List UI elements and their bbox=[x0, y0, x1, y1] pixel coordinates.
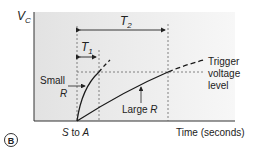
panel-label: B bbox=[8, 136, 15, 146]
y-axis-label: VC bbox=[17, 9, 31, 25]
large-r-label: Large R bbox=[122, 104, 158, 115]
trigger-label-line3: level bbox=[208, 80, 229, 91]
origin-label: S to A bbox=[62, 127, 90, 138]
rc-charging-diagram: T2 T1 Small R Large R Trigger voltage le… bbox=[0, 0, 256, 154]
trigger-label-line2: voltage bbox=[208, 68, 241, 79]
x-axis-label: Time (seconds) bbox=[176, 127, 245, 138]
small-r-label-line2: R bbox=[60, 88, 67, 99]
trigger-label-line1: Trigger bbox=[208, 56, 240, 67]
small-r-label-line1: Small bbox=[40, 75, 65, 86]
